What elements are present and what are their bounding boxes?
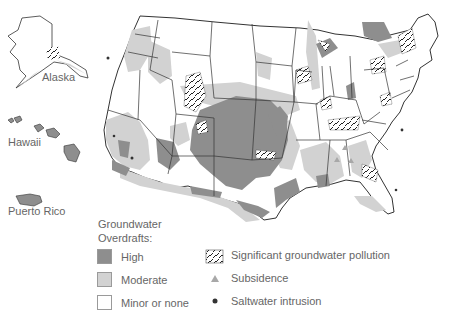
- triangle-icon: [206, 272, 223, 284]
- legend-label-pollution: Significant groundwater pollution: [231, 249, 390, 261]
- alaska-label: Alaska: [42, 71, 75, 83]
- legend-item-high: High: [97, 249, 144, 264]
- hawaii-label: Hawaii: [8, 136, 41, 148]
- puerto-rico-label: Puerto Rico: [8, 205, 65, 217]
- minor-swatch: [97, 295, 112, 310]
- legend-item-moderate: Moderate: [97, 272, 167, 287]
- legend-label-moderate: Moderate: [121, 274, 167, 286]
- legend-label-subsidence: Subsidence: [231, 272, 289, 284]
- high-swatch: [97, 249, 112, 264]
- legend-title: Groundwater Overdrafts:: [98, 217, 162, 245]
- legend-item-saltwater: Saltwater intrusion: [206, 295, 322, 307]
- legend-item-minor: Minor or none: [97, 295, 189, 310]
- legend-label-saltwater: Saltwater intrusion: [231, 295, 322, 307]
- dot-icon: [206, 295, 223, 307]
- hatched-pattern-icon: [206, 249, 223, 261]
- alaska-pollution: [46, 46, 60, 60]
- legend-item-pollution: Significant groundwater pollution: [206, 249, 390, 261]
- legend-label-minor: Minor or none: [121, 297, 189, 309]
- legend-title-line1: Groundwater: [98, 217, 162, 231]
- legend-item-subsidence: Subsidence: [206, 272, 289, 284]
- legend-title-line2: Overdrafts:: [98, 231, 162, 245]
- moderate-swatch: [97, 272, 112, 287]
- legend-label-high: High: [121, 251, 144, 263]
